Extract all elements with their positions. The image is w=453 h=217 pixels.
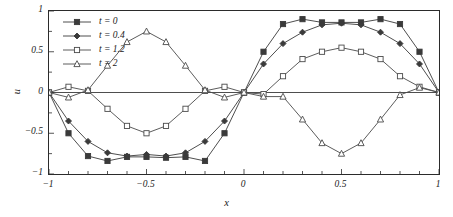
x-tick-label: 0.5 [321, 180, 361, 190]
data-point-open-square [300, 56, 305, 61]
legend-marker-open-square-icon [62, 44, 92, 56]
data-point-open-square [74, 47, 79, 52]
y-tick-label: −0.5 [18, 127, 43, 137]
legend-marker-filled-diamond-icon [62, 30, 92, 42]
data-point-filled-square [202, 158, 207, 163]
data-point-open-square [358, 49, 363, 54]
y-tick-label: 1 [18, 5, 43, 15]
data-point-filled-square [74, 19, 79, 24]
legend-item-0[interactable]: t = 0 [62, 16, 125, 28]
data-point-open-square [397, 74, 402, 79]
legend-label: t = 1.2 [99, 45, 125, 55]
data-point-open-square [280, 74, 285, 79]
legend-item-1[interactable]: t = 0.4 [62, 30, 125, 42]
data-point-open-square [222, 84, 227, 89]
data-point-filled-square [417, 49, 422, 54]
y-tick-label: −1 [18, 168, 43, 178]
legend-label: t = 2 [99, 59, 118, 69]
data-point-filled-diamond [105, 150, 111, 156]
data-point-open-square [183, 106, 188, 111]
data-point-open-square [163, 123, 168, 128]
legend-item-3[interactable]: t = 2 [62, 58, 125, 70]
x-tick-label: 0 [223, 180, 263, 190]
data-point-filled-square [261, 49, 266, 54]
data-point-open-square [105, 106, 110, 111]
y-tick-label: 0.5 [18, 46, 43, 56]
data-point-filled-square [397, 21, 402, 26]
data-point-open-square [339, 45, 344, 50]
data-point-open-triangle [143, 28, 149, 34]
legend-label: t = 0 [99, 17, 118, 27]
legend-label: t = 0.4 [99, 31, 125, 41]
chart-figure: u x −1−0.500.51 −1−0.500.51 t = 0t = 0.4… [0, 0, 453, 217]
data-point-open-square [319, 49, 324, 54]
x-tick-label: 1 [418, 180, 453, 190]
data-point-filled-square [85, 153, 90, 158]
legend-marker-filled-square-icon [62, 16, 92, 28]
data-point-open-square [66, 84, 71, 89]
data-point-filled-square [222, 131, 227, 136]
x-tick-label: −0.5 [126, 180, 166, 190]
x-axis-title: x [0, 197, 453, 208]
data-point-filled-diamond [74, 33, 80, 39]
data-point-filled-square [66, 131, 71, 136]
data-point-open-square [378, 56, 383, 61]
x-tick-label: −1 [28, 180, 68, 190]
data-point-filled-square [300, 17, 305, 22]
data-point-filled-square [378, 17, 383, 22]
data-point-filled-square [280, 21, 285, 26]
data-point-open-square [124, 123, 129, 128]
legend-marker-open-triangle-icon [62, 58, 92, 70]
data-point-open-triangle [338, 150, 344, 156]
legend-item-2[interactable]: t = 1.2 [62, 44, 125, 56]
data-point-filled-diamond [378, 29, 384, 35]
chart-legend: t = 0t = 0.4t = 1.2t = 2 [62, 16, 125, 72]
data-point-open-square [144, 131, 149, 136]
data-point-filled-square [105, 158, 110, 163]
data-point-open-triangle [163, 39, 169, 45]
y-tick-label: 0 [18, 87, 43, 97]
data-point-filled-diamond [300, 29, 306, 35]
